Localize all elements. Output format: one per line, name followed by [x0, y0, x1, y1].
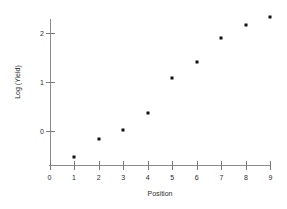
- plot-area: 0123456789 012 Position Log (Yield): [0, 0, 287, 209]
- y-tick-label: 1: [36, 79, 44, 86]
- x-tick-mark: [172, 161, 173, 170]
- x-tick-label: 3: [121, 174, 125, 181]
- x-tick-mark: [123, 161, 124, 170]
- x-tick-mark: [246, 161, 247, 170]
- y-tick-mark: [46, 33, 55, 34]
- x-tick-label: 7: [219, 174, 223, 181]
- data-point: [146, 111, 149, 114]
- x-tick-label: 5: [170, 174, 174, 181]
- x-tick-mark: [221, 161, 222, 170]
- scatter-chart-figure: 0123456789 012 Position Log (Yield): [0, 0, 287, 209]
- data-point: [195, 60, 198, 63]
- y-tick-label: 0: [36, 128, 44, 135]
- y-tick-label: 2: [36, 30, 44, 37]
- x-tick-label: 1: [72, 174, 76, 181]
- x-axis-title: Position: [148, 190, 173, 197]
- data-point: [97, 138, 100, 141]
- y-axis-line: [50, 19, 51, 166]
- x-tick-mark: [99, 161, 100, 170]
- y-tick-mark: [46, 82, 55, 83]
- x-tick-mark: [197, 161, 198, 170]
- data-point: [122, 129, 125, 132]
- x-tick-label: 6: [195, 174, 199, 181]
- x-tick-label: 0: [48, 174, 52, 181]
- x-tick-label: 9: [268, 174, 272, 181]
- x-tick-mark: [50, 161, 51, 170]
- x-tick-label: 8: [244, 174, 248, 181]
- data-point: [220, 36, 223, 39]
- data-point: [171, 77, 174, 80]
- x-tick-mark: [148, 161, 149, 170]
- x-tick-label: 2: [97, 174, 101, 181]
- x-tick-mark: [270, 161, 271, 170]
- y-tick-mark: [46, 131, 55, 132]
- data-point: [269, 15, 272, 18]
- x-axis-line: [49, 165, 271, 166]
- data-point: [73, 155, 76, 158]
- x-tick-mark: [74, 161, 75, 170]
- data-point: [244, 24, 247, 27]
- y-axis-title: Log (Yield): [14, 65, 21, 99]
- x-tick-label: 4: [146, 174, 150, 181]
